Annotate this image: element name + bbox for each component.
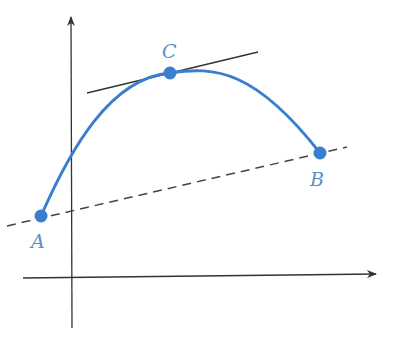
point-a <box>35 210 48 223</box>
label-b: B <box>309 168 324 190</box>
point-b <box>314 147 327 160</box>
label-a: A <box>29 230 45 252</box>
curve <box>41 71 320 216</box>
secant-line <box>7 147 347 226</box>
mean-value-diagram: A C B <box>0 0 396 351</box>
label-c: C <box>162 40 177 62</box>
point-c <box>164 67 177 80</box>
x-axis <box>23 274 376 278</box>
y-axis <box>71 17 72 328</box>
